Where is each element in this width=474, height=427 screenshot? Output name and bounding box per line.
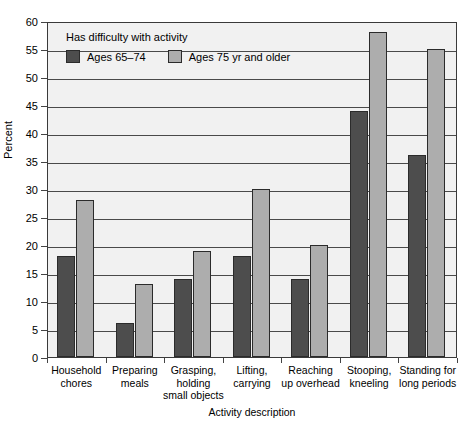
y-axis-tick-label: 50 xyxy=(26,72,38,84)
legend: Has difficulty with activity Ages 65–74 … xyxy=(66,31,366,63)
y-axis-tick-label: 60 xyxy=(26,16,38,28)
bar xyxy=(57,256,75,357)
y-axis-tick-label: 0 xyxy=(32,352,38,364)
x-axis-category-label-line: Grasping, xyxy=(163,364,224,377)
bars-layer xyxy=(48,23,456,357)
bar xyxy=(135,284,153,357)
x-axis-category-label: Reachingup overhead xyxy=(281,364,339,389)
bar xyxy=(427,49,445,357)
x-axis-tick-mark xyxy=(223,358,224,363)
plot-area: Has difficulty with activity Ages 65–74 … xyxy=(47,22,457,358)
bar xyxy=(310,245,328,357)
x-axis-tick-mark xyxy=(340,358,341,363)
bar xyxy=(291,279,309,357)
x-axis-category-label-line: Stooping, xyxy=(347,364,391,377)
bar-group xyxy=(48,23,107,357)
y-axis-tick-label: 55 xyxy=(26,44,38,56)
bar-group xyxy=(107,23,166,357)
bar-group xyxy=(341,23,400,357)
bar xyxy=(369,32,387,357)
x-axis-category-label-line: Preparing xyxy=(112,364,158,377)
y-axis-tick-label: 20 xyxy=(26,240,38,252)
bar xyxy=(76,200,94,357)
legend-title: Has difficulty with activity xyxy=(66,31,366,43)
legend-label: Ages 65–74 xyxy=(87,51,146,63)
x-axis-category-label-line: small objects xyxy=(163,389,224,402)
bar xyxy=(116,323,134,357)
bar xyxy=(233,256,251,357)
x-axis-category-labels: HouseholdchoresPreparingmealsGrasping,ho… xyxy=(47,364,457,412)
x-axis-category-label-line: Household xyxy=(51,364,101,377)
x-axis-category-label-line: holding xyxy=(163,377,224,390)
x-axis-category-label-line: Standing for xyxy=(399,364,456,377)
bar-group xyxy=(224,23,283,357)
x-axis-category-label: Preparingmeals xyxy=(112,364,158,389)
x-axis-category-label: Lifting,carrying xyxy=(233,364,270,389)
x-axis-category-label-line: carrying xyxy=(233,377,270,390)
legend-swatch-icon xyxy=(66,50,80,63)
x-axis-title: Activity description xyxy=(47,406,457,418)
y-axis-ticks: 605550454035302520151050 xyxy=(0,0,47,427)
x-axis-category-label: Grasping,holdingsmall objects xyxy=(163,364,224,402)
bar xyxy=(193,251,211,357)
x-axis-tick-mark xyxy=(106,358,107,363)
bar-group xyxy=(282,23,341,357)
bar-group xyxy=(399,23,458,357)
y-axis-tick-label: 40 xyxy=(26,128,38,140)
bar xyxy=(252,189,270,357)
x-axis-category-label-line: chores xyxy=(51,377,101,390)
legend-entry-ages-75-and-older: Ages 75 yr and older xyxy=(168,50,291,63)
y-axis-tick-label: 35 xyxy=(26,156,38,168)
x-axis-tick-mark xyxy=(47,358,48,363)
y-axis-tick-label: 10 xyxy=(26,296,38,308)
y-axis-tick-label: 15 xyxy=(26,268,38,280)
x-axis-category-label: Standing forlong periods xyxy=(399,364,456,389)
x-axis-category-label-line: meals xyxy=(112,377,158,390)
y-axis-tick-label: 30 xyxy=(26,184,38,196)
x-axis-category-label: Householdchores xyxy=(51,364,101,389)
y-axis-tick-label: 45 xyxy=(26,100,38,112)
y-axis-tick-label: 25 xyxy=(26,212,38,224)
legend-entries: Ages 65–74 Ages 75 yr and older xyxy=(66,50,366,63)
x-axis-category-label-line: long periods xyxy=(399,377,456,390)
bar-chart: Percent 605550454035302520151050 Has dif… xyxy=(0,0,474,427)
bar-group xyxy=(165,23,224,357)
x-axis-tick-mark xyxy=(457,358,458,363)
x-axis-category-label-line: Lifting, xyxy=(233,364,270,377)
y-axis-tick-label: 5 xyxy=(32,324,38,336)
x-axis-tick-mark xyxy=(398,358,399,363)
bar xyxy=(408,155,426,357)
x-axis-tick-mark xyxy=(281,358,282,363)
legend-swatch-icon xyxy=(168,50,182,63)
x-axis-category-label-line: Reaching xyxy=(281,364,339,377)
x-axis-category-label-line: up overhead xyxy=(281,377,339,390)
x-axis-category-label-line: kneeling xyxy=(347,377,391,390)
legend-entry-ages-65-74: Ages 65–74 xyxy=(66,50,146,63)
x-axis-category-label: Stooping,kneeling xyxy=(347,364,391,389)
legend-label: Ages 75 yr and older xyxy=(189,51,291,63)
bar xyxy=(350,111,368,357)
x-axis-tick-mark xyxy=(164,358,165,363)
bar xyxy=(174,279,192,357)
